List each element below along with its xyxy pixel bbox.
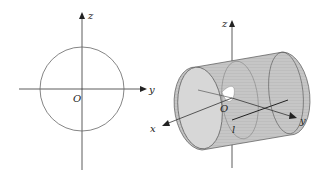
figure-canvas: z y O z y x O l [0,0,322,179]
y-label: y [148,84,155,95]
z-arrow-icon [79,12,85,19]
origin-label: O [73,93,81,104]
left-figure: z y O [19,10,155,170]
z-label: z [87,10,94,21]
line-l-label: l [232,124,235,135]
z-label-3d: z [221,18,228,29]
y-arrow-icon [140,86,147,92]
y-label-3d: y [299,115,306,126]
right-figure: z y x O l [150,18,310,168]
x-arrow-3d-icon [162,120,170,126]
x-label-3d: x [150,123,156,134]
z-arrow-3d-icon [229,20,235,27]
origin-label-3d: O [220,103,228,114]
